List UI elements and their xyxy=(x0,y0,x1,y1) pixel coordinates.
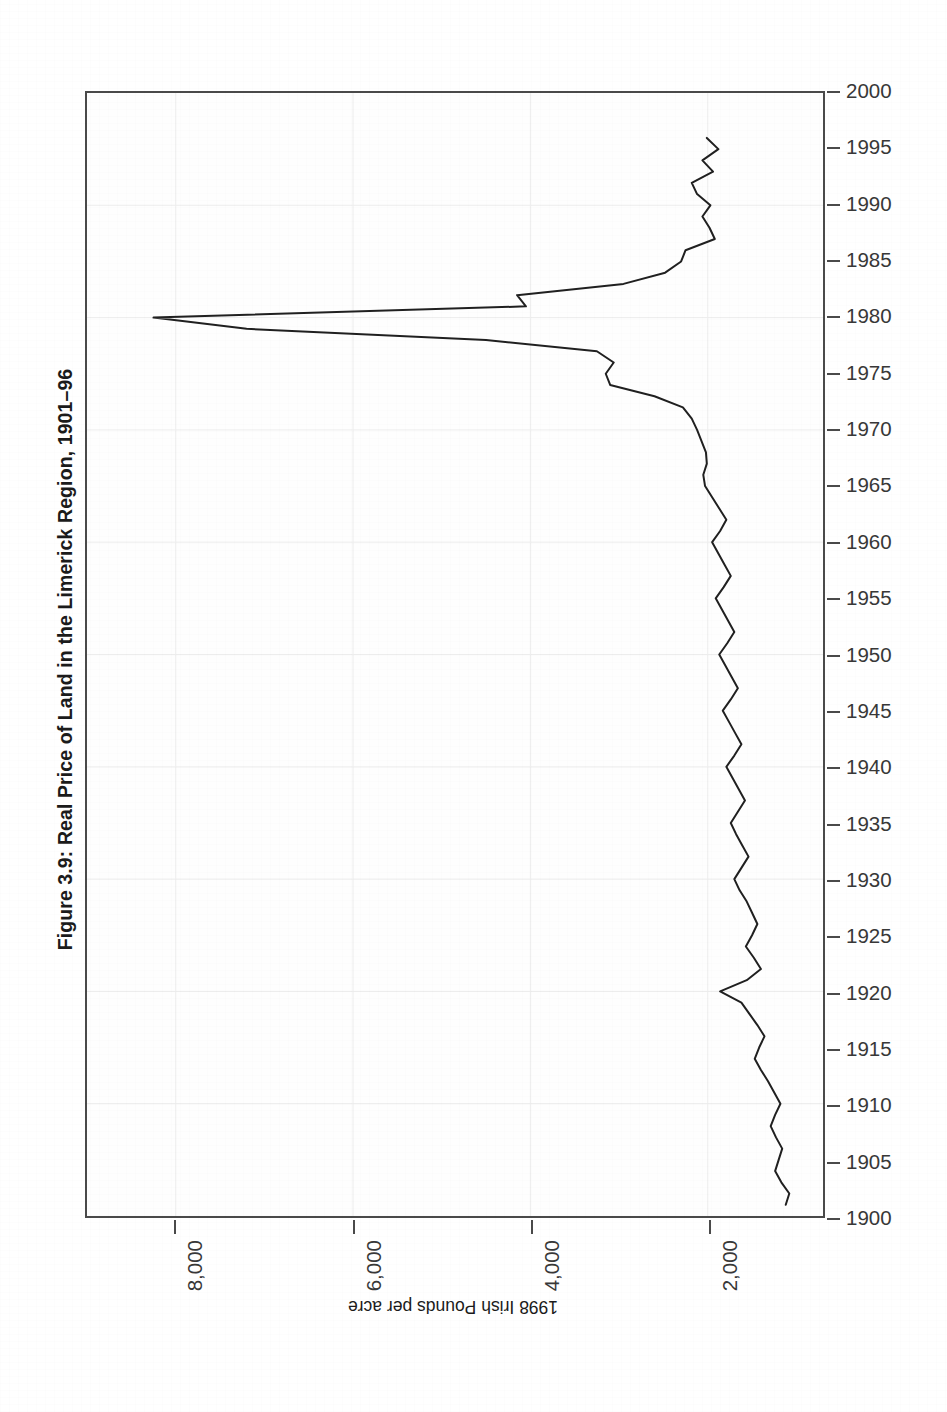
value-axis-label: 2,000 xyxy=(718,1240,742,1291)
figure-title: Figure 3.9: Real Price of Land in the Li… xyxy=(54,310,77,1010)
year-axis-label: 1950 xyxy=(846,643,892,667)
year-axis-tick xyxy=(827,598,840,600)
year-axis-tick xyxy=(827,373,840,375)
year-axis-tick xyxy=(827,1218,840,1220)
year-axis-label: 1985 xyxy=(846,248,892,272)
year-axis-tick xyxy=(827,542,840,544)
data-series-line xyxy=(87,93,823,1216)
value-axis-label: 4,000 xyxy=(540,1240,564,1291)
year-axis-label: 1930 xyxy=(846,868,892,892)
year-axis-label: 1905 xyxy=(846,1150,892,1174)
value-axis-title: 1998 Irish Pounds per acre xyxy=(233,1296,673,1317)
year-axis-label: 1920 xyxy=(846,981,892,1005)
year-axis-tick xyxy=(827,204,840,206)
year-axis-tick xyxy=(827,429,840,431)
year-axis-tick xyxy=(827,147,840,149)
year-axis-tick xyxy=(827,485,840,487)
year-axis-tick xyxy=(827,993,840,995)
value-axis-label: 8,000 xyxy=(183,1240,207,1291)
value-axis-label: 6,000 xyxy=(362,1240,386,1291)
value-axis-tick xyxy=(353,1220,355,1234)
year-axis-tick xyxy=(827,260,840,262)
year-axis-label: 1990 xyxy=(846,192,892,216)
value-axis-tick xyxy=(531,1220,533,1234)
year-axis-tick xyxy=(827,880,840,882)
year-axis-tick xyxy=(827,1049,840,1051)
year-axis-tick xyxy=(827,711,840,713)
year-axis-tick xyxy=(827,655,840,657)
year-axis-tick xyxy=(827,1162,840,1164)
year-axis-tick xyxy=(827,1105,840,1107)
year-axis-label: 1935 xyxy=(846,812,892,836)
year-axis-tick xyxy=(827,316,840,318)
year-axis-label: 2000 xyxy=(846,79,892,103)
value-axis-tick xyxy=(709,1220,711,1234)
year-axis-label: 1995 xyxy=(846,135,892,159)
year-axis-label: 1915 xyxy=(846,1037,892,1061)
year-axis-label: 1900 xyxy=(846,1206,892,1230)
value-axis-tick xyxy=(174,1220,176,1234)
year-axis-label: 1960 xyxy=(846,530,892,554)
year-axis-label: 1980 xyxy=(846,304,892,328)
plot-area xyxy=(85,91,825,1218)
year-axis-label: 1945 xyxy=(846,699,892,723)
year-axis-tick xyxy=(827,936,840,938)
year-axis-label: 1955 xyxy=(846,586,892,610)
year-axis-label: 1910 xyxy=(846,1093,892,1117)
year-axis-tick xyxy=(827,91,840,93)
year-axis-label: 1940 xyxy=(846,755,892,779)
year-axis-label: 1970 xyxy=(846,417,892,441)
year-axis-label: 1975 xyxy=(846,361,892,385)
year-axis-tick xyxy=(827,824,840,826)
year-axis-label: 1925 xyxy=(846,924,892,948)
year-axis-label: 1965 xyxy=(846,473,892,497)
figure-container: Figure 3.9: Real Price of Land in the Li… xyxy=(0,0,947,1412)
year-axis-tick xyxy=(827,767,840,769)
